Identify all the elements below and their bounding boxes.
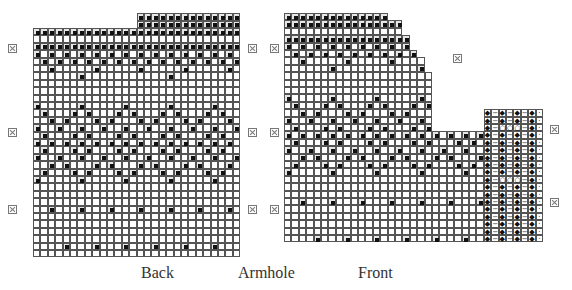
chart-cell bbox=[225, 124, 232, 131]
chart-cell bbox=[314, 65, 321, 72]
contrast-stitch-icon bbox=[124, 53, 128, 57]
rib-cell: · bbox=[536, 154, 543, 161]
chart-cell bbox=[181, 139, 188, 146]
chart-cell bbox=[225, 102, 232, 109]
chart-cell bbox=[137, 13, 144, 20]
contrast-stitch-icon bbox=[124, 245, 128, 249]
chart-cell bbox=[373, 183, 380, 190]
chart-cell bbox=[122, 198, 129, 205]
contrast-stitch-icon bbox=[287, 171, 291, 175]
chart-cell bbox=[321, 146, 328, 153]
chart-cell bbox=[181, 50, 188, 57]
contrast-stitch-icon bbox=[80, 53, 84, 57]
rib-cell: − bbox=[491, 213, 498, 220]
chart-cell bbox=[328, 131, 335, 138]
chart-cell bbox=[432, 154, 439, 161]
rib-cell: ○ bbox=[506, 124, 513, 131]
rib-cell: ◆ bbox=[513, 146, 520, 153]
chart-cell bbox=[351, 161, 358, 168]
contrast-stitch-icon bbox=[95, 68, 99, 72]
chart-cell bbox=[196, 28, 203, 35]
chart-cell bbox=[181, 154, 188, 161]
contrast-stitch-icon bbox=[464, 149, 468, 153]
contrast-stitch-icon bbox=[228, 208, 232, 212]
chart-cell bbox=[85, 124, 92, 131]
chart-cell bbox=[454, 161, 461, 168]
chart-cell bbox=[218, 146, 225, 153]
chart-cell bbox=[159, 206, 166, 213]
chart-cell bbox=[395, 28, 402, 35]
chart-cell bbox=[225, 72, 232, 79]
contrast-stitch-icon bbox=[331, 119, 335, 123]
chart-cell bbox=[291, 139, 298, 146]
contrast-stitch-icon bbox=[161, 45, 165, 49]
contrast-stitch-icon bbox=[139, 23, 143, 27]
chart-cell bbox=[321, 50, 328, 57]
chart-cell bbox=[402, 94, 409, 101]
chart-cell bbox=[439, 168, 446, 175]
chart-cell bbox=[70, 124, 77, 131]
chart-cell bbox=[48, 72, 55, 79]
chart-cell bbox=[203, 65, 210, 72]
contrast-stitch-icon bbox=[139, 164, 143, 168]
chart-cell bbox=[129, 250, 136, 257]
chart-cell bbox=[63, 139, 70, 146]
chart-cell bbox=[100, 65, 107, 72]
chart-cell bbox=[33, 132, 40, 139]
chart-cell bbox=[365, 80, 372, 87]
rib-cell: − bbox=[521, 235, 528, 242]
chart-cell bbox=[351, 57, 358, 64]
chart-cell bbox=[476, 154, 483, 161]
chart-cell bbox=[181, 213, 188, 220]
chart-cell bbox=[203, 43, 210, 50]
chart-cell bbox=[181, 243, 188, 250]
chart-cell bbox=[343, 228, 350, 235]
chart-cell bbox=[462, 161, 469, 168]
chart-cell bbox=[151, 80, 158, 87]
chart-cell bbox=[351, 139, 358, 146]
rib-cell: ◆ bbox=[484, 235, 491, 242]
chart-cell bbox=[321, 220, 328, 227]
contrast-stitch-icon bbox=[213, 45, 217, 49]
rib-cell: − bbox=[491, 205, 498, 212]
chart-cell bbox=[166, 235, 173, 242]
chart-cell bbox=[188, 109, 195, 116]
chart-cell bbox=[100, 72, 107, 79]
chart-cell bbox=[92, 43, 99, 50]
chart-cell bbox=[218, 109, 225, 116]
chart-cell bbox=[454, 213, 461, 220]
chart-cell bbox=[174, 109, 181, 116]
chart-cell bbox=[351, 94, 358, 101]
chart-cell bbox=[432, 235, 439, 242]
contrast-stitch-icon bbox=[73, 60, 77, 64]
contrast-stitch-icon bbox=[184, 119, 188, 123]
chart-cell bbox=[321, 13, 328, 20]
chart-cell bbox=[55, 213, 62, 220]
chart-cell bbox=[211, 183, 218, 190]
rib-cell: − bbox=[521, 198, 528, 205]
chart-cell bbox=[439, 213, 446, 220]
contrast-stitch-icon bbox=[191, 45, 195, 49]
chart-cell bbox=[410, 124, 417, 131]
contrast-stitch-icon bbox=[405, 238, 409, 242]
contrast-stitch-icon bbox=[169, 179, 173, 183]
chart-cell bbox=[107, 169, 114, 176]
chart-cell bbox=[365, 87, 372, 94]
chart-cell bbox=[151, 146, 158, 153]
rib-cell: ◆ bbox=[528, 117, 535, 124]
contrast-stitch-icon bbox=[294, 38, 298, 42]
chart-cell bbox=[321, 131, 328, 138]
chart-cell bbox=[122, 169, 129, 176]
chart-cell bbox=[343, 72, 350, 79]
chart-cell bbox=[137, 146, 144, 153]
chart-cell bbox=[166, 243, 173, 250]
row-marker-icon bbox=[8, 205, 17, 214]
rib-cell: · bbox=[536, 139, 543, 146]
chart-cell bbox=[114, 43, 121, 50]
chart-cell bbox=[233, 28, 240, 35]
contrast-stitch-icon bbox=[154, 164, 158, 168]
contrast-stitch-icon bbox=[50, 31, 54, 35]
chart-cell bbox=[291, 146, 298, 153]
chart-cell bbox=[336, 168, 343, 175]
chart-cell bbox=[107, 139, 114, 146]
